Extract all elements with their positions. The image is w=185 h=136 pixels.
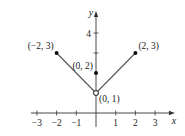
x-tick-label: 1 bbox=[113, 118, 118, 128]
filled-point bbox=[55, 51, 59, 55]
x-tick-label: 3 bbox=[153, 118, 158, 128]
y-axis-label: y bbox=[88, 7, 94, 18]
y-axis-arrow-icon bbox=[94, 11, 98, 17]
isolated-point bbox=[94, 71, 98, 75]
point-annotation: (−2, 3) bbox=[28, 41, 54, 52]
x-axis-label: x bbox=[171, 115, 177, 126]
open-point bbox=[94, 91, 99, 96]
piecewise-chart: xy−3−2−11234(−2, 3)(0, 2)(2, 3)(0, 1) bbox=[0, 0, 185, 136]
series-line-right-branch bbox=[96, 53, 135, 93]
y-tick-label: 4 bbox=[86, 29, 91, 39]
point-annotation: (0, 2) bbox=[72, 61, 93, 72]
x-tick-label: −3 bbox=[32, 118, 42, 128]
x-tick-label: −1 bbox=[71, 118, 81, 128]
point-annotation: (2, 3) bbox=[138, 41, 159, 52]
x-tick-label: −2 bbox=[52, 118, 62, 128]
filled-point bbox=[133, 51, 137, 55]
series-line-left-branch bbox=[57, 53, 96, 93]
x-tick-label: 2 bbox=[133, 118, 138, 128]
point-annotation: (0, 1) bbox=[99, 94, 120, 105]
